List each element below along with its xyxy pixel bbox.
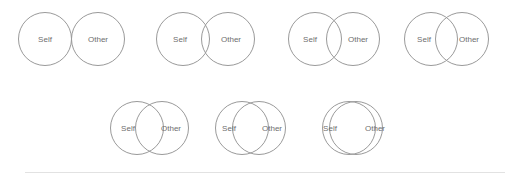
other-label: Other (459, 35, 479, 44)
self-label: Self (323, 124, 338, 133)
other-label: Other (348, 35, 368, 44)
self-circle (111, 102, 164, 155)
ios-item-4[interactable]: SelfOther (404, 11, 503, 68)
self-label: Self (121, 124, 136, 133)
other-label: Other (262, 124, 282, 133)
ios-item-7[interactable]: SelfOther (322, 100, 397, 157)
other-label: Other (221, 35, 241, 44)
self-label: Self (38, 35, 53, 44)
ios-item-2[interactable]: SelfOther (156, 11, 269, 68)
self-circle (405, 13, 458, 66)
bottom-divider (25, 172, 505, 173)
other-label: Other (161, 124, 181, 133)
self-label: Self (222, 124, 237, 133)
ios-item-5[interactable]: SelfOther (110, 100, 203, 157)
ios-item-6[interactable]: SelfOther (215, 100, 300, 157)
ios-item-1[interactable]: SelfOther (18, 11, 139, 68)
other-label: Other (88, 35, 108, 44)
self-label: Self (417, 35, 432, 44)
other-label: Other (365, 124, 385, 133)
ios-scale: SelfOtherSelfOtherSelfOtherSelfOtherSelf… (0, 0, 516, 182)
ios-item-3[interactable]: SelfOther (288, 11, 394, 68)
self-label: Self (173, 35, 188, 44)
self-label: Self (303, 35, 318, 44)
